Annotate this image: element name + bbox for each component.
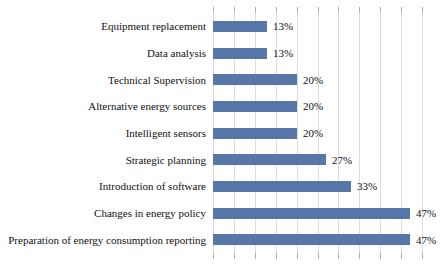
value-label: 47% bbox=[416, 205, 436, 221]
value-label: 33% bbox=[357, 178, 377, 194]
axis-tick bbox=[234, 253, 235, 259]
bar bbox=[213, 101, 297, 112]
axis-tick bbox=[338, 7, 339, 13]
axis-tick bbox=[422, 7, 423, 13]
bar bbox=[213, 181, 351, 192]
category-label: Intelligent sensors bbox=[0, 125, 206, 141]
axis-tick bbox=[380, 7, 381, 13]
category-label: Alternative energy sources bbox=[0, 98, 206, 114]
axis-tick bbox=[213, 253, 214, 259]
bar bbox=[213, 74, 297, 85]
value-label: 27% bbox=[332, 152, 352, 168]
category-label: Equipment replacement bbox=[0, 18, 206, 34]
axis-tick bbox=[276, 253, 277, 259]
axis-tick bbox=[380, 253, 381, 259]
axis-tick bbox=[318, 7, 319, 13]
value-label: 20% bbox=[303, 72, 323, 88]
bar bbox=[213, 234, 410, 245]
axis-tick bbox=[297, 253, 298, 259]
bar bbox=[213, 48, 267, 59]
axis-tick bbox=[422, 253, 423, 259]
value-label: 47% bbox=[416, 232, 436, 248]
category-label: Technical Supervision bbox=[0, 72, 206, 88]
bar bbox=[213, 21, 267, 32]
axis-tick bbox=[401, 253, 402, 259]
category-label: Data analysis bbox=[0, 45, 206, 61]
value-label: 20% bbox=[303, 98, 323, 114]
axis-tick bbox=[255, 253, 256, 259]
category-label: Strategic planning bbox=[0, 152, 206, 168]
axis-tick bbox=[338, 253, 339, 259]
bar bbox=[213, 154, 326, 165]
bar bbox=[213, 208, 410, 219]
axis-tick bbox=[318, 253, 319, 259]
category-label: Introduction of software bbox=[0, 178, 206, 194]
axis-tick bbox=[234, 7, 235, 13]
category-label: Preparation of energy consumption report… bbox=[0, 232, 206, 248]
value-label: 13% bbox=[273, 45, 293, 61]
category-label: Changes in energy policy bbox=[0, 205, 206, 221]
value-label: 20% bbox=[303, 125, 323, 141]
plot-area: 13%13%20%20%20%27%33%47%47% bbox=[213, 13, 443, 253]
bar-chart-figure: 13%13%20%20%20%27%33%47%47% Equipment re… bbox=[0, 0, 443, 267]
axis-tick bbox=[213, 7, 214, 13]
axis-tick bbox=[255, 7, 256, 13]
value-label: 13% bbox=[273, 18, 293, 34]
axis-tick bbox=[359, 253, 360, 259]
axis-tick bbox=[401, 7, 402, 13]
bar bbox=[213, 128, 297, 139]
axis-tick bbox=[359, 7, 360, 13]
axis-tick bbox=[297, 7, 298, 13]
axis-tick bbox=[276, 7, 277, 13]
